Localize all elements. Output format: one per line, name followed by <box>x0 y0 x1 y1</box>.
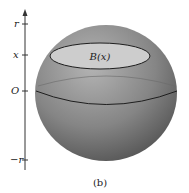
figure-caption: (b) <box>93 177 107 188</box>
axis-arrow-icon <box>23 9 28 16</box>
tick-label-neg-r: −r <box>10 154 24 165</box>
tick-label-x: x <box>13 49 19 60</box>
tick-label-r: r <box>14 18 20 29</box>
cross-section-label: B(x) <box>89 51 111 62</box>
tick-label-o: O <box>11 85 19 96</box>
sphere-diagram: r x O −r B(x) (b) <box>0 0 189 193</box>
